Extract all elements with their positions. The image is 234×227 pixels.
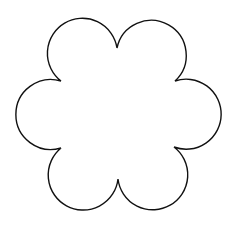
flower-outline-icon (0, 0, 234, 227)
flower-petals-outline (16, 18, 221, 210)
flower-canvas (0, 0, 234, 227)
